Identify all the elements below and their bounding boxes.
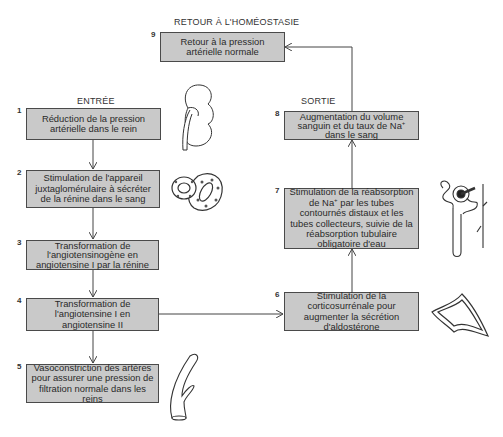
step-number: 9 [151, 30, 155, 39]
step-box-1: Réduction de la pression artérielle dans… [26, 108, 161, 140]
heading-input: ENTRÉE [77, 96, 115, 106]
adrenal-cortex-icon [428, 290, 494, 342]
kidney-icon [178, 80, 218, 152]
step-text: Retour à la pression artérielle normale [178, 37, 268, 58]
step-number: 6 [275, 290, 279, 299]
step-text: Transformation de l'angiotensine I en an… [32, 299, 154, 330]
nephron-icon [435, 178, 490, 260]
step-box-7: Stimulation de la réabsorption de Na+ pa… [284, 188, 419, 249]
step-text: Stimulation de la réabsorption de Na+ pa… [288, 187, 415, 249]
step-number: 7 [275, 186, 279, 195]
artery-icon [162, 352, 202, 422]
step-box-2: Stimulation de l'appareil juxtaglomérula… [26, 170, 160, 208]
step-number: 2 [17, 168, 21, 177]
step-box-6: Stimulation de la corticosurrénale pour … [284, 292, 419, 331]
heading-output: SORTIE [301, 96, 336, 106]
step-number: 4 [17, 296, 21, 305]
heading-homeostasis: RETOUR À L'HOMÉOSTASIE [174, 17, 299, 27]
step-text: Réduction de la pression artérielle dans… [41, 114, 146, 135]
step-number: 3 [17, 238, 21, 247]
step-text: Transformation de l'angiotensinogène en … [33, 241, 153, 270]
step-box-3: Transformation de l'angiotensinogène en … [26, 240, 159, 270]
step-number: 5 [17, 362, 21, 371]
step-box-9: Retour à la pression artérielle normale [160, 32, 285, 62]
juxtaglomerular-apparatus-icon [168, 168, 228, 216]
step-box-8: Augmentation du volume sanguin et du tau… [284, 111, 419, 140]
step-text: Vasoconstriction des artères pour assure… [30, 363, 155, 405]
step-number: 1 [17, 106, 21, 115]
step-text: Stimulation de l'appareil juxtaglomérula… [30, 173, 156, 204]
step-box-4: Transformation de l'angiotensine I en an… [26, 298, 159, 331]
step-box-5: Vasoconstriction des artères pour assure… [26, 364, 159, 403]
step-number: 8 [275, 109, 279, 118]
step-text: Augmentation du volume sanguin et du tau… [296, 112, 408, 140]
step-text: Stimulation de la corticosurrénale pour … [294, 291, 410, 333]
